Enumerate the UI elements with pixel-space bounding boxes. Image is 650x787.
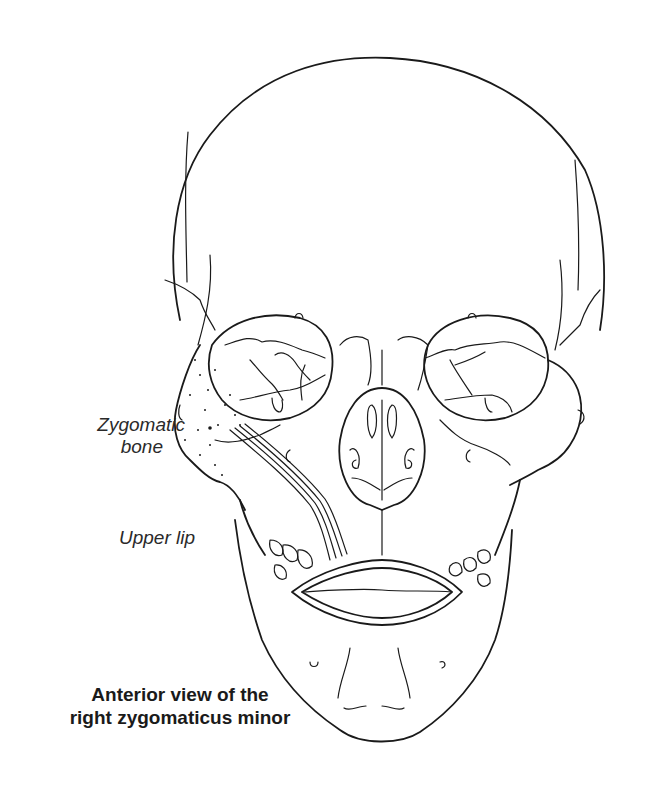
mental-left	[338, 648, 350, 698]
figure-caption: Anterior view of the right zygomaticus m…	[40, 683, 320, 729]
cranium-outline	[173, 58, 604, 330]
orbit-left	[209, 315, 333, 420]
sphenoid-suture-right	[560, 290, 600, 345]
temporal-line-right	[555, 260, 562, 350]
skull-illustration	[0, 0, 650, 787]
zygomatic-bone-label: Zygomatic bone	[95, 414, 185, 458]
coronal-suture-left	[186, 132, 188, 282]
nasal-bone-left	[340, 337, 371, 385]
zygomatic-suture-left	[215, 425, 280, 442]
zygomatic-bone-stipple	[184, 359, 241, 476]
anatomy-figure: Zygomatic bone Upper lip Anterior view o…	[0, 0, 650, 787]
coronal-suture-right	[575, 160, 579, 290]
upper-lip-outer	[292, 560, 462, 625]
upper-lip-label: Upper lip	[100, 527, 195, 549]
zygomaticus-minor-muscle	[230, 424, 347, 560]
teeth	[270, 540, 491, 586]
mental-right	[398, 648, 410, 698]
upper-lip-inner	[302, 568, 452, 618]
maxilla-right	[495, 480, 520, 555]
